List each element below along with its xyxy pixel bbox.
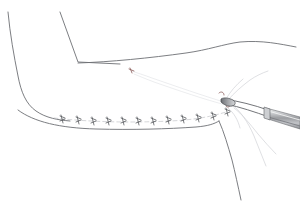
left-body-contour-line [8,12,70,121]
stitch-mark [106,117,111,125]
surgical-illustration-figure: Surgical suture line illustration needle… [0,0,300,204]
stitch-mark [136,117,141,125]
dorsal-contour-curve [78,41,296,63]
stitch-marks-group [60,108,230,125]
suture-line-group [54,92,230,125]
upper-tissue-fold-line [60,12,120,64]
illustration-canvas [0,0,300,204]
needle-marker [129,68,134,73]
anatomy-group [8,12,296,200]
stitch-mark [121,117,126,125]
trailing-suture-thread [132,71,224,102]
suture-threads-group [129,68,276,166]
trailing-suture-thread [134,74,226,105]
forceps-jaw-tip [221,98,235,106]
free-suture-strand [226,79,243,99]
stitch-mark [196,114,201,122]
instrument-group [221,98,300,129]
stitch-mark [151,117,156,125]
free-suture-strand [231,104,266,166]
suture-knot [219,92,224,95]
needle-marker-glyph [129,68,134,73]
instrument-collar [264,107,270,120]
free-suture-strand [228,71,268,100]
stitch-mark [166,116,171,124]
descending-tissue-edge [219,121,241,200]
stitch-mark [181,115,186,123]
